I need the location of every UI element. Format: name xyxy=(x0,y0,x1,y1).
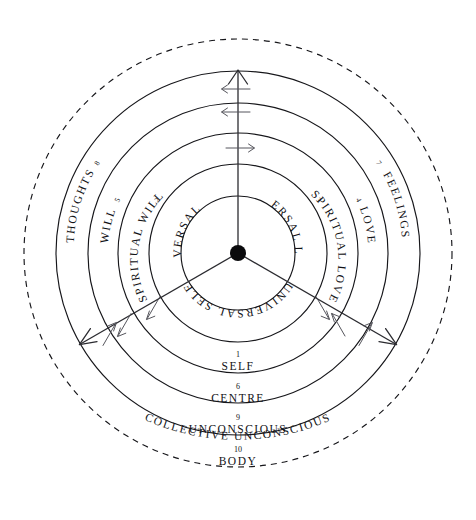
label-centre: CENTRE xyxy=(211,392,265,404)
label-universal-self-text: UNIVERSAL SELF xyxy=(180,281,295,320)
label-thoughts: THOUGHTS xyxy=(64,166,97,243)
number-will-text: 5 xyxy=(112,196,122,204)
number-feelings: 7 xyxy=(374,159,384,167)
label-spiritual-will: SPIRITUAL WILL xyxy=(128,189,167,305)
self-axis-tick-arrows xyxy=(103,297,160,346)
label-body: BODY xyxy=(219,455,258,467)
psychosynthesis-diagram: UNIVERSAL WILL UNIVERSAL LOVE UNIVERSAL … xyxy=(0,0,476,520)
label-will: WILL xyxy=(98,206,118,244)
label-will-text: WILL xyxy=(98,206,118,244)
number-self: 1 xyxy=(236,350,240,359)
label-spiritual-love: SPIRITUAL LOVE xyxy=(309,188,348,306)
number-body: 10 xyxy=(234,445,242,454)
number-feelings-text: 7 xyxy=(374,159,384,167)
number-thoughts: 8 xyxy=(92,159,102,167)
label-self: SELF xyxy=(222,360,255,372)
label-spiritual-will-text: SPIRITUAL WILL xyxy=(128,189,167,305)
number-love: 4 xyxy=(354,196,364,204)
centre-point xyxy=(230,245,246,261)
label-spiritual-love-text: SPIRITUAL LOVE xyxy=(309,188,348,306)
number-love-text: 4 xyxy=(354,196,364,204)
label-universal-love-text: UNIVERSAL LOVE xyxy=(0,0,305,256)
label-universal-love: UNIVERSAL LOVE xyxy=(0,0,305,256)
label-universal-self: UNIVERSAL SELF xyxy=(180,281,295,320)
number-unconscious: 9 xyxy=(236,413,240,422)
label-thoughts-text: THOUGHTS xyxy=(64,166,97,243)
number-centre: 6 xyxy=(236,382,240,391)
label-love-text: LOVE xyxy=(358,205,378,245)
label-love: LOVE xyxy=(358,205,378,245)
diagram-root: UNIVERSAL WILL UNIVERSAL LOVE UNIVERSAL … xyxy=(0,0,476,520)
number-thoughts-text: 8 xyxy=(92,159,102,167)
love-axis-tick-arrows xyxy=(316,297,372,346)
number-will: 5 xyxy=(112,196,122,204)
